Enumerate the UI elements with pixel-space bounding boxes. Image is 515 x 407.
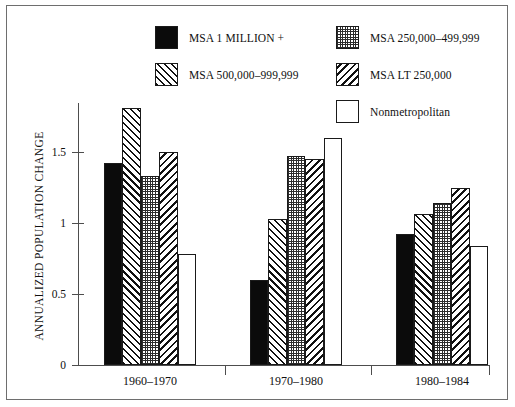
bar xyxy=(470,246,488,365)
x-axis-tick xyxy=(371,365,372,375)
bar xyxy=(451,188,469,366)
x-axis-tick xyxy=(489,365,490,375)
population-change-bar-chart-figure: MSA 1 MILLION + MSA 500,000–999,999 MSA … xyxy=(0,0,515,407)
x-axis-line xyxy=(78,365,489,366)
y-axis-tick xyxy=(72,365,84,366)
y-axis-tick-label: 1 xyxy=(38,217,66,229)
x-axis-category-label: 1980–1984 xyxy=(415,374,469,389)
y-axis-tick xyxy=(72,294,84,295)
y-axis-tick-label: 0.5 xyxy=(38,288,66,300)
bar xyxy=(396,234,414,365)
plot-area: ANNUALIZED POPULATION CHANGE 00.511.5 19… xyxy=(0,0,515,407)
bar xyxy=(305,159,323,365)
x-axis-category-label: 1970–1980 xyxy=(269,374,323,389)
y-axis-line xyxy=(78,103,79,366)
x-axis-category-label: 1960–1970 xyxy=(123,374,177,389)
bar xyxy=(122,108,140,365)
y-axis-tick xyxy=(72,223,84,224)
bar xyxy=(159,152,177,365)
bar xyxy=(268,219,286,365)
bar xyxy=(141,176,159,365)
y-axis-title: ANNUALIZED POPULATION CHANGE xyxy=(33,101,45,371)
bar xyxy=(414,214,432,365)
bar xyxy=(287,156,305,365)
bar xyxy=(433,203,451,365)
bar xyxy=(104,163,122,365)
bar xyxy=(178,254,196,365)
y-axis-tick xyxy=(72,152,84,153)
y-axis-tick-label: 1.5 xyxy=(38,146,66,158)
x-axis-tick xyxy=(225,365,226,375)
bar xyxy=(324,138,342,365)
y-axis-tick-label: 0 xyxy=(38,359,66,371)
bar xyxy=(250,280,268,365)
